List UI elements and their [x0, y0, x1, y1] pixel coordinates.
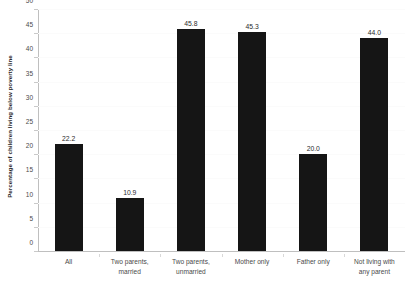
- x-tick-label: Not living withany parent: [344, 257, 405, 276]
- x-axis-tick-labels: AllTwo parents,marriedTwo parents,unmarr…: [38, 254, 405, 288]
- x-tick-label-line: unmarried: [160, 267, 221, 277]
- y-tick-label: 45: [26, 21, 33, 28]
- gridline: [38, 82, 405, 83]
- bar-group: 10.9: [116, 9, 144, 251]
- y-axis-title-text: Percentage of children living below pove…: [6, 55, 13, 198]
- y-tick-label: 25: [26, 118, 33, 125]
- bar-value-label: 45.8: [184, 20, 197, 27]
- plot-area: 22.210.945.845.320.044.0: [38, 9, 405, 251]
- gridline: [38, 203, 405, 204]
- x-tick-label: All: [38, 257, 99, 267]
- gridline: [38, 154, 405, 155]
- x-tick-label-line: Two parents,: [160, 257, 221, 267]
- bar-value-label: 20.0: [307, 145, 320, 152]
- x-tick-label: Two parents,unmarried: [160, 257, 221, 276]
- x-tick-label: Two parents,married: [99, 257, 160, 276]
- y-axis-title: Percentage of children living below pove…: [0, 0, 18, 252]
- gridline: [38, 227, 405, 228]
- x-tick-label: Mother only: [222, 257, 283, 267]
- y-tick-mark: [34, 106, 38, 107]
- x-tick-mark: [222, 254, 223, 257]
- y-tick-mark: [34, 203, 38, 204]
- gridline: [38, 9, 405, 10]
- bar-value-label: 45.3: [245, 23, 258, 30]
- y-tick-mark: [34, 130, 38, 131]
- x-tick-label-line: Not living with: [344, 257, 405, 267]
- y-tick-label: 40: [26, 45, 33, 52]
- y-tick-label: 10: [26, 190, 33, 197]
- y-tick-label: 50: [26, 0, 33, 4]
- bar[interactable]: [238, 32, 266, 251]
- bar-group: 22.2: [55, 9, 83, 251]
- x-tick-mark: [160, 254, 161, 257]
- x-tick-label-line: Mother only: [222, 257, 283, 267]
- y-tick-mark: [34, 82, 38, 83]
- bar[interactable]: [360, 38, 388, 251]
- bar-value-label: 44.0: [368, 29, 381, 36]
- x-tick-label-line: Two parents,: [99, 257, 160, 267]
- y-axis-tick-labels: 05101520253035404550: [18, 0, 36, 252]
- y-tick-mark: [34, 57, 38, 58]
- x-tick-label-line: Father only: [283, 257, 344, 267]
- y-tick-label: 5: [29, 214, 33, 221]
- y-tick-mark: [34, 251, 38, 252]
- x-tick-label: Father only: [283, 257, 344, 267]
- y-tick-label: 15: [26, 166, 33, 173]
- bar-group: 45.8: [177, 9, 205, 251]
- bar[interactable]: [177, 29, 205, 251]
- y-tick-label: 30: [26, 93, 33, 100]
- y-tick-mark: [34, 33, 38, 34]
- gridline: [38, 57, 405, 58]
- x-tick-label-line: All: [38, 257, 99, 267]
- bar[interactable]: [299, 154, 327, 251]
- y-tick-mark: [34, 9, 38, 10]
- y-tick-label: 35: [26, 69, 33, 76]
- y-tick-mark: [34, 227, 38, 228]
- gridline: [38, 178, 405, 179]
- x-tick-label-line: married: [99, 267, 160, 277]
- bar-group: 20.0: [299, 9, 327, 251]
- bar[interactable]: [55, 144, 83, 251]
- x-tick-mark: [344, 254, 345, 257]
- gridline: [38, 106, 405, 107]
- bar-group: 44.0: [360, 9, 388, 251]
- bar[interactable]: [116, 198, 144, 251]
- bar-value-label: 10.9: [123, 189, 136, 196]
- gridline: [38, 33, 405, 34]
- bar-group: 45.3: [238, 9, 266, 251]
- y-tick-label: 0: [29, 239, 33, 246]
- y-tick-label: 20: [26, 142, 33, 149]
- bar-chart: Percentage of children living below pove…: [0, 0, 415, 288]
- gridline: [38, 130, 405, 131]
- x-tick-mark: [283, 254, 284, 257]
- y-tick-mark: [34, 154, 38, 155]
- y-tick-mark: [34, 178, 38, 179]
- x-tick-mark: [99, 254, 100, 257]
- x-tick-label-line: any parent: [344, 267, 405, 277]
- bar-value-label: 22.2: [62, 135, 75, 142]
- x-axis-line: [38, 251, 405, 252]
